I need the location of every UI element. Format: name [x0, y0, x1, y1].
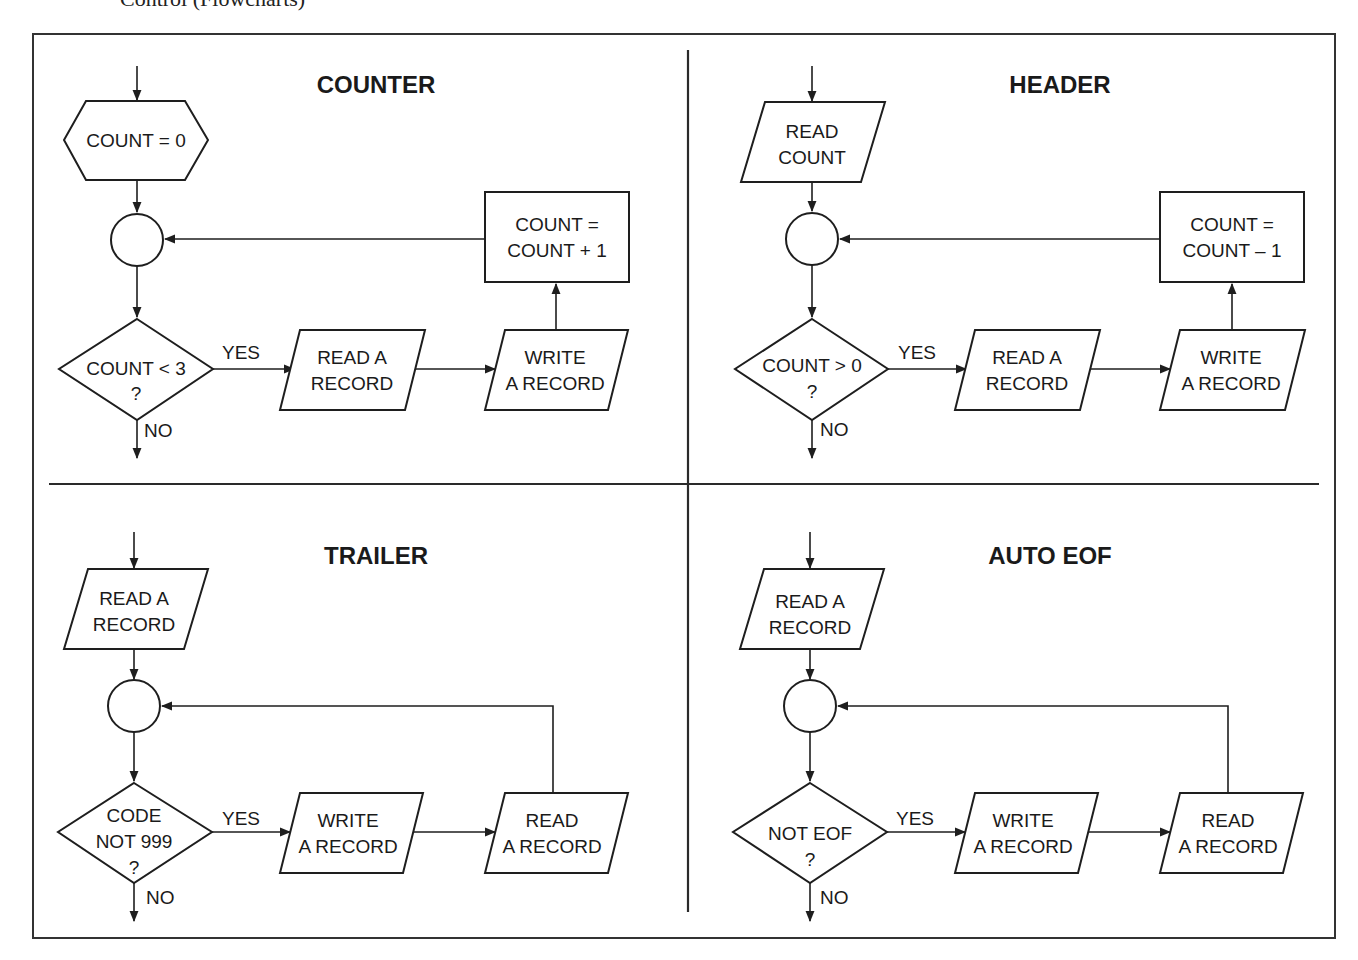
io-label: RECORD: [769, 617, 851, 638]
io-label: READ: [786, 121, 839, 142]
no-label: NO: [820, 419, 849, 440]
no-label: NO: [144, 420, 173, 441]
yes-label: YES: [898, 342, 936, 363]
io-label: WRITE: [992, 810, 1053, 831]
counter-title: COUNTER: [317, 71, 436, 98]
no-label: NO: [820, 887, 849, 908]
process-label: COUNT – 1: [1183, 240, 1282, 261]
read-record-io: [64, 569, 208, 649]
io-label: WRITE: [524, 347, 585, 368]
io-label: A RECORD: [1178, 836, 1277, 857]
io-label: READ A: [317, 347, 387, 368]
trailer-title: TRAILER: [324, 542, 428, 569]
decrement-process-box: [1160, 192, 1304, 282]
process-label: COUNT =: [1190, 214, 1274, 235]
connector-circle: [108, 680, 160, 732]
loop-back-arrow: [838, 706, 1228, 793]
yes-label: YES: [896, 808, 934, 829]
auto-eof-flowchart: AUTO EOF READ A RECORD NOT EOF ? NO YES …: [733, 532, 1303, 921]
init-label: COUNT = 0: [86, 130, 185, 151]
io-label: RECORD: [93, 614, 175, 635]
decision-label: COUNT < 3: [86, 358, 185, 379]
io-label: A RECORD: [505, 373, 604, 394]
io-label: A RECORD: [1181, 373, 1280, 394]
connector-circle: [784, 680, 836, 732]
figure-frame: [33, 34, 1335, 938]
io-label: READ A: [99, 588, 169, 609]
decision-question: ?: [131, 383, 142, 404]
io-label: A RECORD: [502, 836, 601, 857]
auto-eof-title: AUTO EOF: [988, 542, 1112, 569]
decision-question: ?: [129, 857, 140, 878]
process-label: COUNT + 1: [507, 240, 606, 261]
yes-label: YES: [222, 808, 260, 829]
decision-label: COUNT > 0: [762, 355, 861, 376]
read-record-io: [1160, 793, 1303, 873]
decision-label: NOT EOF: [768, 823, 852, 844]
io-label: A RECORD: [973, 836, 1072, 857]
connector-circle: [111, 214, 163, 266]
io-label: WRITE: [1200, 347, 1261, 368]
io-label: WRITE: [317, 810, 378, 831]
flowchart-figure: COUNTER COUNT = 0 COUNT < 3 ? NO YES REA…: [0, 0, 1358, 960]
write-record-io: [280, 793, 423, 873]
trailer-flowchart: TRAILER READ A RECORD CODE NOT 999 ? NO …: [58, 532, 628, 921]
decision-label: NOT 999: [96, 831, 173, 852]
header-title: HEADER: [1009, 71, 1110, 98]
counter-flowchart: COUNTER COUNT = 0 COUNT < 3 ? NO YES REA…: [59, 66, 629, 458]
write-record-io: [1160, 330, 1305, 410]
write-record-io: [955, 793, 1098, 873]
io-label: RECORD: [311, 373, 393, 394]
decision-question: ?: [805, 849, 816, 870]
read-record-io: [955, 330, 1100, 410]
decision-question: ?: [807, 381, 818, 402]
header-flowchart: HEADER READ COUNT COUNT > 0 ? NO YES REA…: [735, 66, 1305, 458]
io-label: COUNT: [778, 147, 846, 168]
no-label: NO: [146, 887, 175, 908]
loop-back-arrow: [162, 706, 553, 793]
io-label: READ A: [992, 347, 1062, 368]
io-label: A RECORD: [298, 836, 397, 857]
io-label: RECORD: [986, 373, 1068, 394]
yes-label: YES: [222, 342, 260, 363]
increment-process-box: [485, 192, 629, 282]
read-record-io: [280, 330, 425, 410]
decision-label: CODE: [107, 805, 162, 826]
read-record-io: [485, 793, 628, 873]
read-count-io: [741, 102, 885, 182]
io-label: READ A: [775, 591, 845, 612]
io-label: READ: [526, 810, 579, 831]
write-record-io: [485, 330, 628, 410]
process-label: COUNT =: [515, 214, 599, 235]
io-label: READ: [1202, 810, 1255, 831]
connector-circle: [786, 213, 838, 265]
